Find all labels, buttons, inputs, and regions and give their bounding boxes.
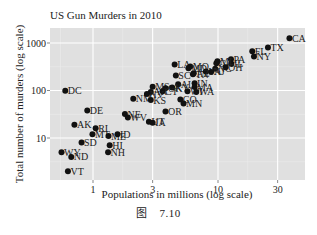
point-label: OR: [168, 106, 182, 117]
y-axis-label: Total number of murders (log scale): [13, 24, 26, 183]
point-label: SD: [84, 137, 97, 148]
point-label: NH: [111, 147, 125, 158]
y-tick-label: 10: [36, 133, 46, 144]
point-label: TX: [270, 42, 284, 53]
point-label: IA: [155, 117, 166, 128]
point-label: DC: [68, 85, 82, 96]
point-label: DE: [90, 105, 103, 116]
scatter-chart: 131030101001000 CATXFLNYPAGAILMINCOHLAMO…: [0, 0, 317, 235]
point-label: VT: [70, 166, 83, 177]
figure-caption: 图 7.10: [0, 204, 317, 220]
point-label: AK: [77, 119, 92, 130]
point-label: AZ: [196, 68, 209, 79]
point-label: CA: [292, 33, 307, 44]
y-tick-label: 100: [31, 85, 46, 96]
point-label: OH: [228, 62, 242, 73]
x-tick-label: 1: [91, 184, 96, 195]
y-tick-label: 1000: [26, 38, 46, 49]
point-label: MN: [186, 98, 202, 109]
x-tick-label: 30: [273, 184, 283, 195]
point-label: CT: [165, 86, 178, 97]
point-label: NJ: [214, 66, 225, 77]
point-label: NY: [256, 51, 270, 62]
point-label: ID: [120, 129, 131, 140]
point-label: NV: [149, 89, 164, 100]
point-label: ND: [74, 151, 88, 162]
point-label: WA: [199, 86, 215, 97]
point-label: WV: [130, 112, 147, 123]
x-axis-label: Populations in millions (log scale): [102, 188, 253, 201]
